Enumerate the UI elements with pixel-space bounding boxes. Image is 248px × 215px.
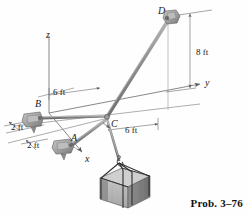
- point-label-c: C: [111, 119, 118, 129]
- point-label-a: A: [71, 133, 77, 143]
- figure-caption: Prob. 3–76: [190, 197, 243, 209]
- crate: [100, 163, 150, 208]
- cable-bc: [42, 115, 107, 118]
- bracket-d: [163, 10, 180, 24]
- bracket-b: [22, 112, 43, 133]
- cable-ac: [72, 118, 107, 145]
- joint-ring-c: [105, 115, 110, 120]
- axis-label-y: y: [205, 78, 209, 88]
- axis-label-x: x: [85, 154, 89, 164]
- point-label-d: D: [158, 6, 165, 16]
- dimension-label-6ft-right: 6 ft: [125, 126, 137, 135]
- figure-container: z y x D C B A 6 ft 6 ft 2 ft 2 ft 8 ft P…: [0, 0, 248, 215]
- point-label-b: B: [35, 99, 41, 109]
- dimension-label-2ft-lower: 2 ft: [27, 141, 39, 150]
- dimension-label-6ft-top: 6 ft: [53, 88, 65, 97]
- dimension-label-8ft: 8 ft: [196, 48, 208, 57]
- dimension-label-2ft-upper: 2 ft: [11, 123, 23, 132]
- cable-cd: [106, 18, 169, 117]
- axis-label-z: z: [46, 30, 50, 40]
